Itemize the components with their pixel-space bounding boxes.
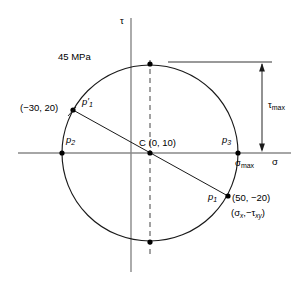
p1-prime-label: p′1	[82, 97, 93, 107]
point-marker-p3	[235, 150, 240, 155]
dimension-arrowhead-up-icon	[259, 63, 265, 72]
p1-coordinate-label: (50, −20)	[232, 193, 270, 203]
tau-max-subscript: max	[272, 104, 285, 111]
sigma-max-subscript: max	[241, 162, 254, 169]
sigma-axis-label: σ	[272, 157, 278, 167]
p1-label: p1	[208, 192, 217, 202]
point-marker-tau-min	[147, 239, 152, 244]
tau-subscript: xy	[255, 212, 262, 219]
p1-prime-subscript: 1	[89, 101, 93, 108]
point-marker-tau-max	[147, 61, 152, 66]
point-marker-center	[147, 150, 152, 155]
point-marker-p2	[59, 150, 64, 155]
radius-annotation-label: 45 MPa	[58, 52, 91, 62]
tau-axis-label: τ	[120, 16, 124, 26]
sigma-max-base: σ	[235, 157, 241, 168]
p2-label: p2	[66, 135, 75, 145]
p2-subscript: 2	[71, 139, 75, 146]
tau-max-dimension-label: τmax	[268, 100, 285, 110]
mohrs-circle-figure: τ σ 45 MPa (−30, 20) p′1 p2 p3 C (0, 10)…	[0, 0, 299, 290]
sigma-subscript: x	[240, 212, 243, 219]
p1-stress-notation-label: (σx,−τxy)	[231, 208, 265, 218]
p1-prime-coordinate-label: (−30, 20)	[20, 103, 58, 113]
dimension-arrowhead-down-icon	[259, 144, 265, 153]
p3-subscript: 3	[227, 139, 231, 146]
sigma-max-label: σmax	[235, 158, 254, 168]
negative-tau-symbol: −τ	[246, 207, 255, 218]
p1-subscript: 1	[213, 196, 217, 203]
notation-close-paren: )	[262, 207, 265, 218]
p3-label: p3	[222, 135, 231, 145]
circle-center-label: C (0, 10)	[139, 138, 176, 148]
point-marker-p1	[225, 193, 230, 198]
